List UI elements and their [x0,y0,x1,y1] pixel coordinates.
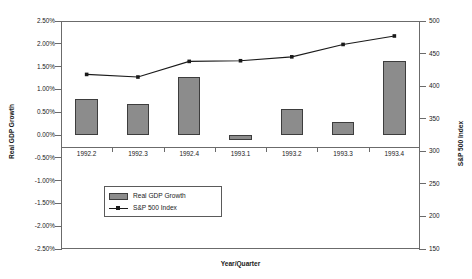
left-axis-tick [55,203,62,204]
bar-1993-1 [229,135,252,140]
right-axis-tick [419,249,426,250]
chart-legend: Real GDP Growth S&P 500 Index [104,186,222,217]
right-axis-tick-label: 250 [429,180,440,187]
bar-swatch-icon [109,193,128,200]
right-axis-tick-label: 200 [429,212,440,219]
bar-1992-2 [75,99,98,135]
right-axis-tick [419,21,426,22]
bar-1993-2 [281,109,304,135]
left-axis-tick [55,43,62,44]
bar-1992-3 [127,104,150,135]
left-axis-tick-label: 0.50% [19,108,55,115]
legend-item-real-gdp-growth: Real GDP Growth [109,190,217,202]
right-axis-tick-label: 300 [429,147,440,154]
legend-item-sp500-index: S&P 500 Index [109,202,217,214]
x-axis-tick-label: 1992.4 [161,150,217,158]
zero-baseline [61,147,420,148]
right-axis-tick [419,183,426,184]
left-axis-tick-label: 2.00% [19,40,55,47]
x-axis-tick-label: 1993.1 [213,150,269,158]
x-axis-tick-label: 1993.2 [264,150,320,158]
left-axis-tick-label: 0.00% [19,131,55,138]
left-axis-tick-label: -2.50% [19,245,55,252]
right-axis-tick [419,86,426,87]
y-axis-title-right: S&P 500 Index [457,111,464,177]
left-axis-tick [55,66,62,67]
left-axis-tick [55,180,62,181]
left-axis-tick-label: -1.00% [19,177,55,184]
left-axis-tick-label: -1.50% [19,199,55,206]
left-axis-tick [55,112,62,113]
right-axis-tick [419,53,426,54]
right-axis-tick [419,118,426,119]
left-axis-tick-label: -0.50% [19,154,55,161]
bar-1993-4 [383,61,406,135]
left-axis-tick-label: 1.00% [19,85,55,92]
left-axis-tick [55,135,62,136]
y-axis-title-left: Real GDP Growth [8,99,15,165]
right-axis-tick-label: 450 [429,50,440,57]
right-axis-tick-label: 400 [429,82,440,89]
line-marker-swatch-icon [109,205,128,212]
left-axis-tick [55,21,62,22]
left-axis-tick [55,226,62,227]
legend-label-sp500-index: S&P 500 Index [133,204,177,212]
gdp-sp500-combo-chart: 2.50%2.00%1.50%1.00%0.50%0.00%-0.50%-1.0… [0,0,472,279]
left-axis-tick-label: -2.00% [19,222,55,229]
bar-1992-4 [178,77,201,135]
right-axis-tick-label: 350 [429,115,440,122]
left-axis-tick-label: 2.50% [19,17,55,24]
x-axis-tick-label: 1993.3 [315,150,371,158]
right-axis-tick-label: 150 [429,245,440,252]
x-axis-tick-label: 1993.4 [366,150,422,158]
right-axis-tick [419,216,426,217]
bar-1993-3 [332,122,355,135]
left-axis-tick [55,89,62,90]
legend-label-real-gdp-growth: Real GDP Growth [133,192,186,200]
left-axis-tick [55,249,62,250]
x-axis-tick-label: 1992.3 [110,150,166,158]
x-axis-tick-label: 1992.2 [59,150,115,158]
left-axis-tick-label: 1.50% [19,63,55,70]
x-axis-title: Year/Quarter [61,260,420,267]
right-axis-tick-label: 500 [429,17,440,24]
